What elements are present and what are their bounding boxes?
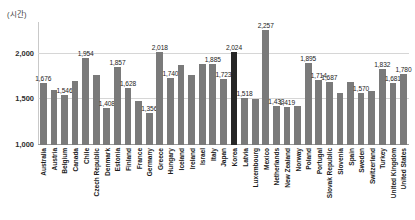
bar-value-label: 1,780 [395, 66, 411, 73]
x-axis-category-label: Iceland [178, 148, 185, 170]
x-axis-category: Netherlands [271, 148, 282, 218]
x-axis-category-label: New Zealand [283, 148, 290, 188]
bar[interactable] [178, 65, 185, 145]
bar[interactable] [262, 30, 269, 145]
x-axis-category-label: Czech Republic [93, 148, 100, 196]
bar[interactable] [315, 80, 322, 145]
x-axis-category-label: Mexico [262, 148, 269, 170]
x-axis-category: Korea [229, 148, 240, 218]
bar-slot: 1,723 [218, 22, 229, 145]
plot-area: 1,0001,5002,000 1,6761,5461,9541,4081,85… [38, 22, 409, 145]
x-axis-category-label: Netherlands [273, 148, 280, 186]
x-axis-category-label: Denmark [103, 148, 110, 176]
bar[interactable] [156, 52, 163, 145]
x-axis-category-label: Canada [72, 148, 79, 172]
bar[interactable] [390, 83, 397, 145]
x-axis-category: Greece [155, 148, 166, 218]
bar[interactable] [167, 78, 174, 145]
x-axis-category-label: Chile [82, 148, 89, 164]
bar[interactable] [337, 93, 344, 145]
bar[interactable] [199, 64, 206, 145]
x-axis-category: Iceland [176, 148, 187, 218]
bar[interactable] [103, 108, 110, 145]
bar-slot: 1,885 [208, 22, 219, 145]
x-axis-category-label: Belgium [61, 148, 68, 174]
x-axis-category-label: Finland [125, 148, 132, 171]
bar-slot: 1,546 [59, 22, 70, 145]
bar-slot: 1,628 [123, 22, 134, 145]
x-axis-category-label: Japan [220, 148, 227, 167]
x-axis-category-label: Estonia [114, 148, 121, 171]
bar[interactable] [284, 107, 291, 145]
x-axis-category-label: United States [400, 148, 407, 190]
x-axis-category: Czech Republic [91, 148, 102, 218]
x-axis-category-label: Turkey [379, 148, 386, 169]
x-axis-category: Denmark [102, 148, 113, 218]
x-axis-category: Norway [292, 148, 303, 218]
x-axis-category-label: United Kingdom [389, 148, 396, 198]
y-axis-tick-label: 1,500 [15, 94, 34, 103]
bar-slot [292, 22, 303, 145]
bar[interactable] [273, 106, 280, 145]
x-axis-category: United Kingdom [388, 148, 399, 218]
bar[interactable] [188, 75, 195, 145]
bar-slot: 1,681 [388, 22, 399, 145]
bar[interactable] [294, 106, 301, 145]
bar-series: 1,6761,5461,9541,4081,8571,6281,3562,018… [38, 22, 409, 145]
bar-slot: 1,433 [271, 22, 282, 145]
bar[interactable] [241, 98, 248, 145]
x-axis-category: Germany [144, 148, 155, 218]
bar[interactable] [400, 74, 407, 145]
x-axis-category-label: Spain [347, 148, 354, 166]
x-axis-category-label: Austria [50, 148, 57, 170]
bar-slot [250, 22, 261, 145]
bar[interactable] [368, 91, 375, 145]
bar[interactable] [358, 93, 365, 145]
bar-slot: 2,024 [229, 22, 240, 145]
x-axis-category-label: Ireland [188, 148, 195, 169]
bar[interactable] [61, 95, 68, 145]
bar[interactable] [125, 88, 132, 145]
bar[interactable] [231, 52, 238, 145]
bar[interactable] [72, 81, 79, 145]
x-axis-category: Australia [38, 148, 49, 218]
bar[interactable] [40, 83, 47, 145]
x-axis-category: Latvia [239, 148, 250, 218]
bar[interactable] [51, 90, 58, 145]
bar[interactable] [220, 79, 227, 145]
x-axis-category: Austria [49, 148, 60, 218]
x-axis-category-label: Hungary [167, 148, 174, 174]
x-axis-category-label: Israel [199, 148, 206, 165]
bar[interactable] [114, 67, 121, 145]
bar-slot: 1,895 [303, 22, 314, 145]
x-axis-category: Luxembourg [250, 148, 261, 218]
bar-slot: 2,257 [260, 22, 271, 145]
bar[interactable] [326, 82, 333, 145]
bar-slot: 1,356 [144, 22, 155, 145]
x-axis-category: Japan [218, 148, 229, 218]
x-axis-category-label: Korea [230, 148, 237, 166]
bar-slot [335, 22, 346, 145]
bar[interactable] [252, 99, 259, 145]
bar-slot: 1,687 [324, 22, 335, 145]
bar-chart: (시간) 1,0001,5002,000 1,6761,5461,9541,40… [0, 0, 415, 220]
bar-slot: 1,954 [80, 22, 91, 145]
bar[interactable] [146, 113, 153, 145]
x-axis-category-label: Poland [305, 148, 312, 170]
bar-slot: 2,018 [155, 22, 166, 145]
x-axis-category: United States [398, 148, 409, 218]
bar-slot [186, 22, 197, 145]
x-axis-category-label: Greece [156, 148, 163, 170]
bar[interactable] [93, 75, 100, 145]
x-axis-category: Spain [345, 148, 356, 218]
x-axis-category-label: Germany [146, 148, 153, 176]
bar-slot [176, 22, 187, 145]
x-axis-category-label: Switzerland [368, 148, 375, 184]
x-axis-category-label: Slovenia [336, 148, 343, 175]
bar-slot [49, 22, 60, 145]
bar-slot [91, 22, 102, 145]
x-axis-category-labels: AustraliaAustriaBelgiumCanadaChileCzech … [38, 148, 409, 218]
bar-slot: 1,714 [313, 22, 324, 145]
x-axis-category: Sweden [356, 148, 367, 218]
bar[interactable] [82, 58, 89, 145]
